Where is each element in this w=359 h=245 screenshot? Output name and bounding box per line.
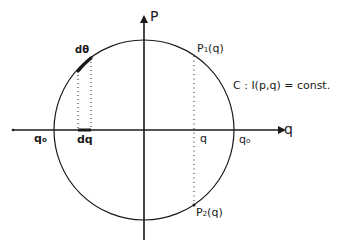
p-axis-label: P bbox=[150, 9, 158, 23]
p2-label: P2(q) bbox=[196, 207, 223, 218]
q0-left-label: qo bbox=[34, 133, 47, 144]
d-theta-label: dθ bbox=[75, 45, 89, 55]
curve-caption: C : I(p,q) = const. bbox=[233, 80, 330, 91]
phase-space-diagram: P q dθ qo dq q qo P1(q) P2(q) C : I(p,q)… bbox=[0, 0, 359, 245]
diagram-graphics bbox=[0, 0, 359, 245]
dq-label: dq bbox=[77, 134, 93, 145]
q0-right-label: qo bbox=[239, 134, 250, 145]
q-point-label: q bbox=[200, 133, 207, 144]
d-theta-arc bbox=[78, 58, 91, 71]
q-axis-start-dot bbox=[12, 129, 15, 132]
q-axis-label: q bbox=[284, 122, 293, 136]
p1-label: P1(q) bbox=[197, 43, 224, 54]
